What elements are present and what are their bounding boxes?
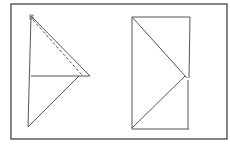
diagram-svg — [0, 0, 230, 148]
left-vertical-edge — [28, 16, 31, 127]
diagram-canvas — [0, 0, 230, 148]
right-figure — [132, 17, 190, 129]
left-dashed-fold-line — [33, 20, 82, 75]
left-lower-diagonal — [28, 76, 79, 127]
right-lower-diagonal — [132, 76, 185, 128]
right-upper-diagonal — [132, 17, 187, 78]
left-upper-hypotenuse — [31, 16, 90, 76]
right-rect-right-upper — [189, 17, 190, 78]
left-figure — [28, 15, 90, 127]
outer-frame — [11, 4, 227, 139]
